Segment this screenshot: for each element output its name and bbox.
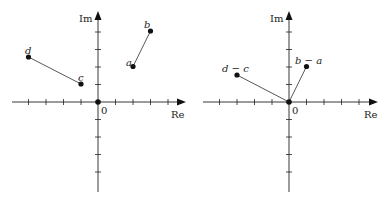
segment-0-d-minus-c	[237, 75, 289, 102]
right-real-axis-arrow-icon	[369, 99, 378, 106]
label-d: d	[25, 45, 31, 56]
segment-a-b	[133, 31, 151, 67]
complex-plane-figure: Im Re 0 a b c d	[0, 0, 387, 203]
label-c: c	[78, 72, 84, 83]
right-origin-label: 0	[292, 105, 298, 116]
left-complex-plane: Im Re 0 a b c d	[12, 11, 186, 192]
right-im-label: Im	[270, 13, 284, 24]
left-im-label: Im	[79, 13, 93, 24]
right-imaginary-axis-arrow-icon	[286, 11, 293, 20]
left-re-label: Re	[171, 109, 185, 120]
label-b: b	[144, 19, 150, 30]
right-complex-plane: Im Re 0 b − a d − c	[203, 11, 378, 192]
right-re-label: Re	[364, 109, 378, 120]
origin-point	[95, 99, 101, 105]
label-d-minus-c: d − c	[222, 63, 249, 74]
left-origin-label: 0	[101, 105, 107, 116]
label-a: a	[126, 57, 132, 68]
left-real-axis-arrow-icon	[177, 99, 186, 106]
right-origin-point	[286, 99, 292, 105]
left-imaginary-axis-arrow-icon	[95, 11, 102, 20]
label-b-minus-a: b − a	[295, 55, 322, 66]
segment-d-c	[29, 57, 82, 84]
